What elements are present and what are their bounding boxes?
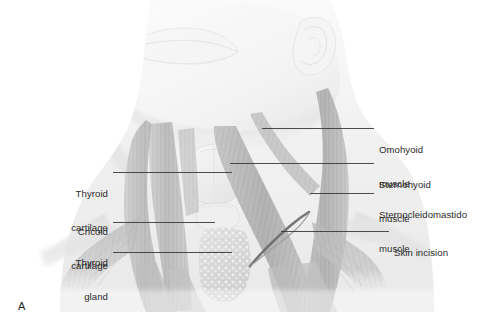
label-line-1: Skin incision — [394, 247, 448, 258]
label-line-1: Sternocleidomastido — [379, 209, 467, 220]
label-line-1: Thyroid — [71, 188, 108, 199]
label-line-1: Omohyoid — [379, 144, 423, 155]
label-skin-incision: Skin incision — [394, 224, 448, 281]
label-line-1: Thyroid — [76, 257, 108, 268]
label-line-2: gland — [76, 291, 108, 302]
anatomy-figure: Thyroid cartilage Cricoid cartilage Thyr… — [0, 0, 493, 326]
label-thyroid-gland: Thyroid gland — [76, 234, 108, 325]
panel-label-a: A — [18, 300, 26, 312]
